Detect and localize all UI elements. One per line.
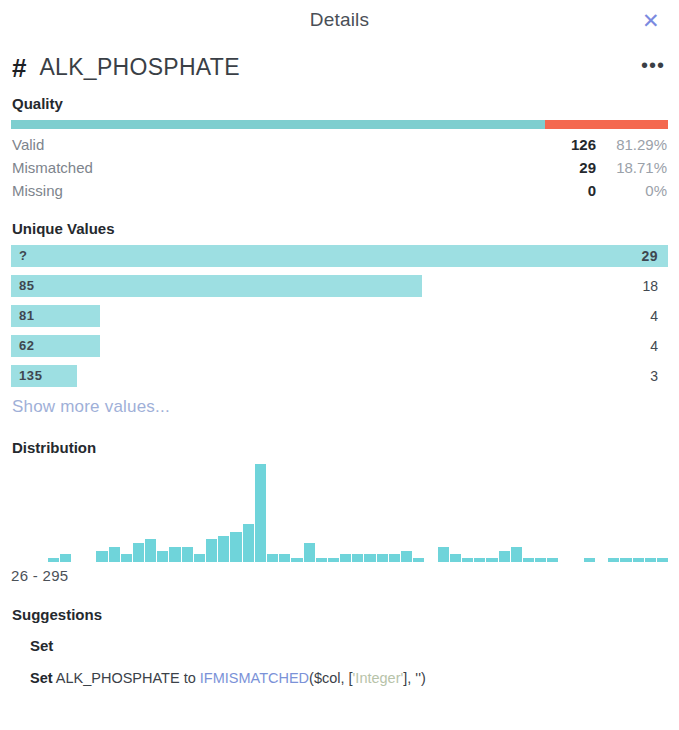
histogram-bar bbox=[364, 554, 375, 562]
quality-rows: Valid 126 81.29% Mismatched 29 18.71% Mi… bbox=[11, 133, 668, 202]
suggestion-keyword: Set bbox=[30, 670, 53, 686]
unique-value-row[interactable]: ?29 bbox=[11, 245, 668, 267]
distribution-range-label: 26 - 295 bbox=[11, 567, 668, 584]
hash-icon: # bbox=[12, 55, 25, 81]
quality-percent: 18.71% bbox=[605, 159, 667, 176]
histogram-bar bbox=[96, 551, 107, 562]
quality-section: Valid 126 81.29% Mismatched 29 18.71% Mi… bbox=[0, 120, 679, 202]
quality-bar bbox=[11, 120, 668, 129]
unique-value-track: 1353 bbox=[11, 365, 668, 387]
histogram-bar bbox=[169, 547, 180, 562]
histogram-bar bbox=[218, 536, 229, 562]
suggestion-type-literal: 'Integer' bbox=[353, 670, 404, 686]
histogram-bar bbox=[389, 554, 400, 562]
unique-value-bar bbox=[11, 245, 668, 267]
histogram-bar bbox=[450, 554, 461, 562]
histogram-bar bbox=[304, 543, 315, 562]
histogram-bar bbox=[48, 558, 59, 562]
show-more-values-link[interactable]: Show more values... bbox=[0, 395, 679, 417]
suggestion-item-set[interactable]: Set ALK_PHOSPHATE to IFMISMATCHED($col, … bbox=[12, 670, 667, 686]
quality-percent: 81.29% bbox=[605, 136, 667, 153]
unique-value-track: 8518 bbox=[11, 275, 668, 297]
histogram-bar bbox=[608, 558, 619, 562]
histogram-bar bbox=[584, 558, 595, 562]
unique-value-count: 18 bbox=[642, 275, 658, 297]
details-panel: Details ✕ # ALK_PHOSPHATE ••• Quality Va… bbox=[0, 0, 679, 730]
histogram-bar bbox=[230, 532, 241, 562]
more-options-icon[interactable]: ••• bbox=[641, 61, 665, 75]
histogram-bar bbox=[206, 539, 217, 562]
quality-count: 0 bbox=[547, 182, 605, 199]
distribution-section: 26 - 295 bbox=[0, 464, 679, 584]
histogram-bar bbox=[145, 539, 156, 562]
histogram-bar bbox=[243, 524, 254, 562]
histogram-bar bbox=[133, 543, 144, 562]
histogram-bar bbox=[121, 554, 132, 562]
histogram-bar bbox=[401, 551, 412, 562]
unique-value-count: 29 bbox=[641, 245, 658, 267]
quality-heading: Quality bbox=[0, 95, 679, 112]
histogram-bar bbox=[438, 547, 449, 562]
histogram-bar bbox=[352, 554, 363, 562]
unique-value-track: 814 bbox=[11, 305, 668, 327]
suggestion-args-open: ($col, [ bbox=[309, 670, 353, 686]
column-header: # ALK_PHOSPHATE ••• bbox=[0, 40, 679, 87]
unique-value-label: 85 bbox=[19, 275, 35, 297]
histogram-bar bbox=[413, 558, 424, 562]
unique-value-count: 4 bbox=[650, 305, 658, 327]
quality-label: Valid bbox=[12, 136, 547, 153]
quality-count: 126 bbox=[547, 136, 605, 153]
histogram-bar bbox=[633, 558, 644, 562]
unique-value-label: 62 bbox=[19, 335, 35, 357]
unique-value-row[interactable]: 1353 bbox=[11, 365, 668, 387]
unique-value-track: ?29 bbox=[11, 245, 668, 267]
unique-value-label: 81 bbox=[19, 305, 35, 327]
histogram-bar bbox=[547, 558, 558, 562]
panel-title: Details bbox=[310, 9, 369, 31]
histogram-bar bbox=[267, 554, 278, 562]
histogram-bar bbox=[340, 554, 351, 562]
column-name: ALK_PHOSPHATE bbox=[39, 54, 641, 81]
histogram-bar bbox=[620, 558, 631, 562]
histogram-bar bbox=[486, 558, 497, 562]
histogram-bar bbox=[279, 554, 290, 562]
unique-value-row[interactable]: 814 bbox=[11, 305, 668, 327]
unique-value-track: 624 bbox=[11, 335, 668, 357]
histogram-bar bbox=[109, 547, 120, 562]
titlebar: Details ✕ bbox=[0, 0, 679, 40]
histogram-bar bbox=[316, 558, 327, 562]
unique-value-row[interactable]: 624 bbox=[11, 335, 668, 357]
quality-count: 29 bbox=[547, 159, 605, 176]
close-icon[interactable]: ✕ bbox=[639, 8, 663, 32]
suggestion-function: IFMISMATCHED bbox=[200, 670, 309, 686]
suggestion-column: ALK_PHOSPHATE to bbox=[53, 670, 200, 686]
unique-value-label: ? bbox=[19, 245, 28, 267]
suggestion-args-close: ], '') bbox=[403, 670, 425, 686]
histogram-bar bbox=[157, 551, 168, 562]
quality-row-valid: Valid 126 81.29% bbox=[11, 133, 668, 156]
quality-row-mismatched: Mismatched 29 18.71% bbox=[11, 156, 668, 179]
histogram-bar bbox=[462, 558, 473, 562]
histogram-bar bbox=[645, 558, 656, 562]
histogram-bar bbox=[255, 464, 266, 562]
quality-label: Mismatched bbox=[12, 159, 547, 176]
unique-value-bar bbox=[11, 275, 422, 297]
quality-row-missing: Missing 0 0% bbox=[11, 179, 668, 202]
histogram-bar bbox=[499, 551, 510, 562]
quality-bar-valid bbox=[11, 120, 545, 129]
unique-value-row[interactable]: 8518 bbox=[11, 275, 668, 297]
suggestions-heading: Suggestions bbox=[0, 606, 679, 623]
histogram-bar bbox=[474, 558, 485, 562]
distribution-histogram bbox=[11, 464, 668, 562]
distribution-heading: Distribution bbox=[0, 439, 679, 456]
unique-value-count: 4 bbox=[650, 335, 658, 357]
unique-values-heading: Unique Values bbox=[0, 220, 679, 237]
histogram-bar bbox=[291, 558, 302, 562]
histogram-bar bbox=[535, 558, 546, 562]
quality-percent: 0% bbox=[605, 182, 667, 199]
histogram-bar bbox=[657, 558, 668, 562]
quality-label: Missing bbox=[12, 182, 547, 199]
unique-value-label: 135 bbox=[19, 365, 43, 387]
quality-bar-mismatched bbox=[545, 120, 668, 129]
histogram-bar bbox=[511, 547, 522, 562]
